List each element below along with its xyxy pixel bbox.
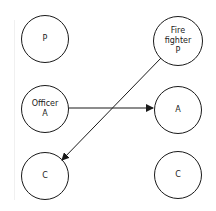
node-c-left: C <box>21 152 69 200</box>
node-label: C <box>175 170 181 180</box>
node-label: P <box>43 34 48 44</box>
node-label: A <box>175 105 180 115</box>
diagram-canvas: P Fire fighter P Officer A A C C <box>0 0 216 211</box>
node-p-left: P <box>21 15 69 63</box>
node-label: Fire fighter P <box>165 26 192 56</box>
edge-firefighter-p-to-c <box>62 58 161 160</box>
node-firefighter-p: Fire fighter P <box>153 16 203 66</box>
node-label: C <box>42 171 48 181</box>
node-c-right: C <box>154 151 202 199</box>
node-officer-a: Officer A <box>21 85 69 133</box>
node-label: Officer A <box>32 99 59 119</box>
node-a-right: A <box>154 86 202 134</box>
